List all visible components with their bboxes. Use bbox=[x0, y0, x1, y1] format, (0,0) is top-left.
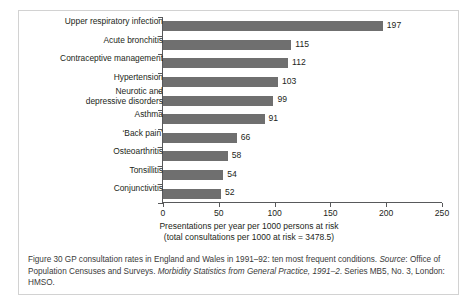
caption-publication-title: Morbidity Statistics from General Practi… bbox=[158, 267, 310, 276]
bar-value-label: 91 bbox=[269, 113, 279, 123]
bar bbox=[163, 77, 278, 87]
bar-row: Acute bronchitis115 bbox=[19, 36, 460, 55]
figure-container: Upper respiratory infection197Acute bron… bbox=[18, 10, 459, 295]
x-axis-tick-label: 100 bbox=[260, 208, 290, 218]
bar-value-label: 197 bbox=[387, 20, 401, 30]
x-axis-tick bbox=[219, 203, 220, 207]
bar bbox=[163, 58, 288, 68]
bar bbox=[163, 133, 237, 143]
bar bbox=[163, 40, 291, 50]
x-axis-tick bbox=[163, 203, 164, 207]
x-axis-tick bbox=[386, 203, 387, 207]
x-axis-tick-label: 150 bbox=[315, 208, 345, 218]
x-axis-tick bbox=[442, 203, 443, 207]
bar-category-label: Acute bronchitis bbox=[27, 36, 163, 46]
y-axis-tick bbox=[158, 110, 163, 111]
y-axis-tick bbox=[158, 184, 163, 185]
y-axis-tick bbox=[158, 54, 163, 55]
y-axis-tick bbox=[158, 147, 163, 148]
caption-line-1: Figure 30 GP consultation rates in Engla… bbox=[28, 255, 377, 264]
bar-row: Osteoarthritis58 bbox=[19, 147, 460, 166]
bar-row: Contraceptive management112 bbox=[19, 54, 460, 73]
figure-caption: Figure 30 GP consultation rates in Engla… bbox=[28, 254, 451, 289]
y-axis-tick bbox=[158, 36, 163, 37]
x-axis-tick bbox=[330, 203, 331, 207]
x-axis-title: Presentations per year per 1000 persons … bbox=[59, 221, 439, 243]
bar bbox=[163, 96, 273, 106]
bar-category-label: Contraceptive management bbox=[27, 54, 163, 64]
bar bbox=[163, 21, 383, 31]
bar bbox=[163, 170, 223, 180]
bar-category-label: Tonsillitis bbox=[27, 166, 163, 176]
bar bbox=[163, 151, 228, 161]
bar bbox=[163, 114, 265, 124]
bar-value-label: 58 bbox=[232, 150, 242, 160]
x-axis-title-line1: Presentations per year per 1000 persons … bbox=[59, 221, 439, 232]
y-axis-tick bbox=[158, 91, 163, 92]
bar-category-label: Upper respiratory infection bbox=[27, 17, 163, 27]
x-axis-tick-label: 200 bbox=[371, 208, 401, 218]
x-axis-tick-label: 50 bbox=[204, 208, 234, 218]
y-axis-tick bbox=[158, 73, 163, 74]
x-axis-tick bbox=[275, 203, 276, 207]
bar-row: ‘Back pain’66 bbox=[19, 129, 460, 148]
caption-source-label: Source bbox=[379, 255, 405, 264]
bar-value-label: 103 bbox=[282, 76, 296, 86]
x-axis-tick-label: 250 bbox=[427, 208, 457, 218]
bar-row: Upper respiratory infection197 bbox=[19, 17, 460, 36]
bar bbox=[163, 189, 221, 199]
bar-chart-plot-area: Upper respiratory infection197Acute bron… bbox=[19, 11, 460, 211]
x-axis-title-line2: (total consultations per 1000 at risk = … bbox=[59, 232, 439, 243]
bar-value-label: 99 bbox=[277, 94, 287, 104]
bar-row: Conjunctivitis52 bbox=[19, 184, 460, 203]
bar-value-label: 66 bbox=[241, 132, 251, 142]
bar-category-label: Asthma bbox=[27, 110, 163, 120]
bar-category-label: Osteoarthritis bbox=[27, 147, 163, 157]
y-axis-tick bbox=[158, 129, 163, 130]
x-axis-tick-label: 0 bbox=[148, 208, 178, 218]
bar-category-label: ‘Back pain’ bbox=[27, 129, 163, 139]
bar-row: Tonsillitis54 bbox=[19, 166, 460, 185]
bar-category-label: Neurotic and depressive disorders bbox=[27, 87, 163, 106]
bar-value-label: 52 bbox=[225, 187, 235, 197]
bar-category-label: Hypertension bbox=[27, 73, 163, 83]
bar-row: Asthma91 bbox=[19, 110, 460, 129]
bar-category-label: Conjunctivitis bbox=[27, 184, 163, 194]
bar-value-label: 112 bbox=[292, 57, 306, 67]
caption-year-range: 1991–2 bbox=[312, 267, 339, 276]
y-axis-tick bbox=[158, 166, 163, 167]
y-axis-tick bbox=[158, 17, 163, 18]
bar-row: Neurotic and depressive disorders99 bbox=[19, 91, 460, 110]
bar-value-label: 54 bbox=[227, 169, 237, 179]
bar-value-label: 115 bbox=[295, 39, 309, 49]
